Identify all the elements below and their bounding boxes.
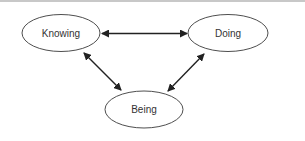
node-doing: Doing xyxy=(188,15,268,52)
being-label: Being xyxy=(131,104,157,115)
knowing-label: Knowing xyxy=(42,28,80,39)
knowing-doing-being-diagram: Knowing Doing Being xyxy=(0,0,305,141)
node-knowing: Knowing xyxy=(22,15,100,52)
edge-knowing-being xyxy=(84,53,121,90)
doing-label: Doing xyxy=(215,28,241,39)
edge-doing-being xyxy=(168,54,204,91)
node-being: Being xyxy=(105,91,183,128)
